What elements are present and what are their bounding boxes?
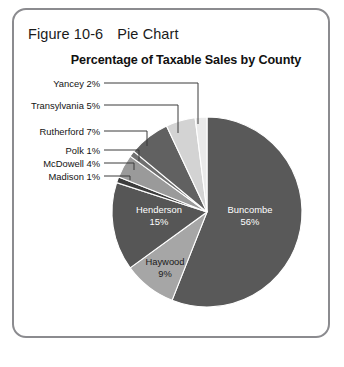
pie-chart	[0, 0, 344, 367]
callout-label-rutherford: Rutherford 7%	[0, 126, 100, 137]
callout-label-mcdowell: McDowell 4%	[0, 158, 100, 169]
callout-label-madison: Madison 1%	[0, 171, 100, 182]
slice-label-percent: 56%	[228, 216, 273, 228]
slice-label-title: Haywood	[145, 256, 184, 267]
slice-label-percent: 15%	[136, 216, 182, 228]
slice-label-buncombe: Buncombe56%	[228, 204, 273, 228]
callout-label-polk: Polk 1%	[0, 145, 100, 156]
slice-label-henderson: Henderson15%	[136, 204, 182, 228]
leader-line-yancey	[104, 83, 198, 124]
slice-label-percent: 9%	[145, 268, 184, 280]
slice-label-haywood: Haywood9%	[145, 256, 184, 280]
slice-label-title: Henderson	[136, 204, 182, 215]
slice-label-title: Buncombe	[228, 204, 273, 215]
callout-label-yancey: Yancey 2%	[0, 78, 100, 89]
callout-label-transylvania: Transylvania 5%	[0, 100, 100, 111]
